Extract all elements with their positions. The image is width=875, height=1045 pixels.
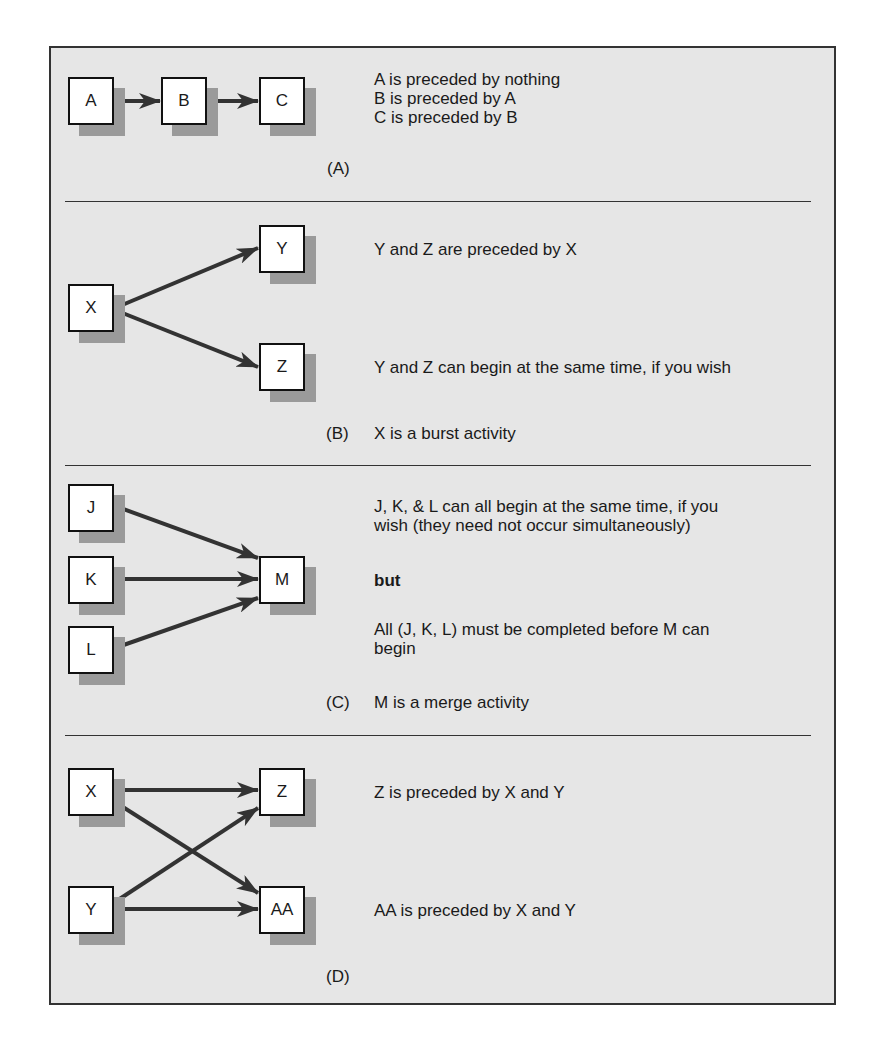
description-line: A is preceded by nothing — [374, 70, 560, 89]
arrow-y-z — [115, 808, 258, 902]
node-y: Y — [68, 886, 114, 934]
arrow-x-aa — [115, 802, 258, 893]
section-label-a: (A) — [327, 159, 350, 178]
divider — [65, 201, 811, 202]
divider — [65, 735, 811, 736]
description-line: C is preceded by B — [374, 108, 518, 127]
node-c: C — [259, 77, 305, 125]
node-z: Z — [259, 768, 305, 816]
node-m: M — [259, 556, 305, 604]
node-x: X — [68, 284, 114, 332]
description-line: Z is preceded by X and Y — [374, 783, 565, 802]
description-line-but: but — [374, 571, 400, 590]
node-a: A — [68, 77, 114, 125]
arrow-l-m — [115, 598, 258, 648]
arrow-j-m — [115, 506, 258, 558]
section-label-d: (D) — [326, 967, 350, 986]
description-line: wish (they need not occur simultaneously… — [374, 516, 691, 535]
node-j: J — [68, 484, 114, 532]
section-caption: X is a burst activity — [374, 424, 516, 443]
divider — [65, 465, 811, 466]
node-aa: AA — [259, 886, 305, 934]
description-line: Y and Z can begin at the same time, if y… — [374, 358, 731, 377]
section-caption: M is a merge activity — [374, 693, 529, 712]
section-label-c: (C) — [326, 693, 350, 712]
description-line: begin — [374, 639, 416, 658]
description-line: J, K, & L can all begin at the same time… — [374, 497, 718, 516]
node-b: B — [161, 77, 207, 125]
node-z: Z — [259, 343, 305, 391]
description-line: All (J, K, L) must be completed before M… — [374, 620, 709, 639]
arrow-x-z — [115, 310, 258, 367]
node-x: X — [68, 768, 114, 816]
section-label-b: (B) — [326, 424, 349, 443]
node-l: L — [68, 626, 114, 674]
arrow-x-y — [115, 248, 258, 308]
description-line: Y and Z are preceded by X — [374, 240, 577, 259]
description-line: B is preceded by A — [374, 89, 516, 108]
description-line: AA is preceded by X and Y — [374, 901, 576, 920]
node-y: Y — [259, 225, 305, 273]
node-k: K — [68, 556, 114, 604]
